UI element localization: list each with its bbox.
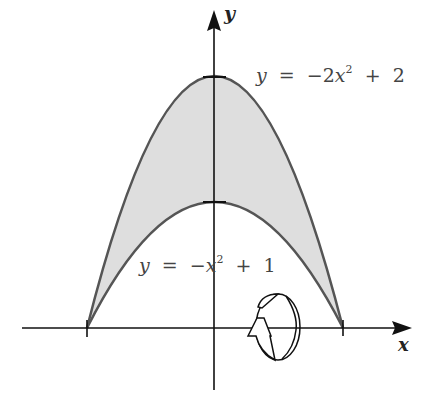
revolution-region-diagram: y x y = −2x2 + 2 y = −x2 + 1 [0, 0, 444, 415]
upper-const: 2 [393, 64, 405, 86]
upper-plus: + [365, 64, 381, 86]
upper-curve-equation: y = −2x2 + 2 [256, 64, 405, 86]
lower-curve-equation: y = −x2 + 1 [139, 254, 276, 276]
x-axis-label: x [398, 334, 409, 355]
upper-exp: 2 [346, 63, 353, 76]
y-axis-label: y [224, 2, 235, 24]
lower-lhs: y [139, 254, 150, 276]
upper-minus: − [307, 64, 323, 86]
x-axis-arrow-icon [392, 321, 412, 335]
lower-plus: + [236, 254, 252, 276]
lower-minus: − [190, 254, 206, 276]
lower-const: 1 [264, 254, 276, 276]
lower-equals: = [162, 254, 178, 276]
diagram-canvas [0, 0, 444, 415]
upper-lhs: y [256, 64, 267, 86]
upper-var: x [335, 64, 346, 86]
upper-coef: 2 [323, 64, 335, 86]
rotation-about-x-axis-icon [248, 294, 300, 360]
y-axis-arrow-icon [207, 10, 221, 31]
lower-exp: 2 [216, 253, 223, 266]
upper-equals: = [279, 64, 295, 86]
lower-var: x [206, 254, 217, 276]
